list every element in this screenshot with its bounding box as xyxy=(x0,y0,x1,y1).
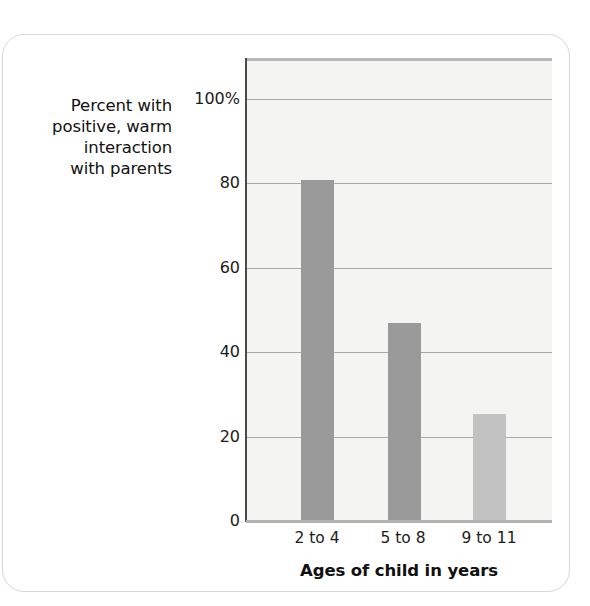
bar-chart-figure: Percent with positive, warm interaction … xyxy=(0,0,590,606)
bar-9-to-11 xyxy=(473,414,506,521)
bar-2-to-4 xyxy=(301,180,334,521)
y-tick-label-100: 100% xyxy=(178,91,240,107)
y-tick-label-40: 40 xyxy=(178,344,240,360)
x-axis-title: Ages of child in years xyxy=(246,561,552,580)
y-tick-label-80: 80 xyxy=(178,175,240,191)
y-tick-label-0: 0 xyxy=(178,513,240,529)
y-axis-title-line-1: Percent with xyxy=(22,95,172,116)
gridline-80 xyxy=(246,183,552,184)
y-tick-label-20: 20 xyxy=(178,429,240,445)
plot-area xyxy=(246,58,552,521)
plot-top-border xyxy=(246,58,552,61)
x-tick-label-5-to-8: 5 to 8 xyxy=(358,529,448,547)
y-axis-title: Percent with positive, warm interaction … xyxy=(22,95,172,179)
x-tick-label-9-to-11: 9 to 11 xyxy=(444,529,534,547)
y-axis-title-line-3: interaction xyxy=(22,137,172,158)
y-axis-title-line-4: with parents xyxy=(22,158,172,179)
x-axis-line xyxy=(246,520,552,523)
y-axis-line xyxy=(245,58,247,522)
gridline-60 xyxy=(246,268,552,269)
y-tick-label-60: 60 xyxy=(178,260,240,276)
x-tick-label-2-to-4: 2 to 4 xyxy=(272,529,362,547)
bar-5-to-8 xyxy=(388,323,421,521)
y-axis-title-line-2: positive, warm xyxy=(22,116,172,137)
gridline-100 xyxy=(246,99,552,100)
